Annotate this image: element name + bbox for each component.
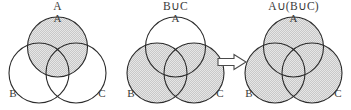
circle-label-b: B xyxy=(9,87,16,99)
venn-panel-a-union-b-union-c: A∪(B∪C) A B C xyxy=(236,0,351,110)
circle-label-b: B xyxy=(245,87,252,99)
circle-label-a: A xyxy=(54,13,62,24)
circle-label-a: A xyxy=(290,13,298,24)
circle-label-c: C xyxy=(334,87,341,99)
venn-svg-a: A B C xyxy=(0,13,115,110)
circle-label-b: B xyxy=(127,87,134,99)
circle-label-a: A xyxy=(172,13,180,24)
circle-label-c: C xyxy=(98,87,105,99)
panel-title-a-union-b-union-c: A∪(B∪C) xyxy=(236,0,351,13)
venn-svg-a-union-b-union-c: A B C xyxy=(236,13,351,110)
panel-title-a: A xyxy=(0,0,115,13)
panel-title-b-union-c: B∪C xyxy=(118,0,233,13)
venn-panel-a: A A B C xyxy=(0,0,115,110)
circle-label-c: C xyxy=(216,87,223,99)
venn-diagram-figure: A A B C B∪C xyxy=(0,0,351,110)
